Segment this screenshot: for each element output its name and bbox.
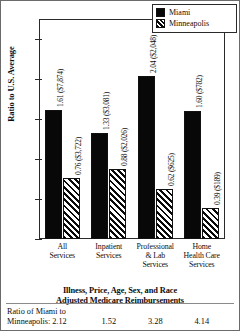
bar-minneapolis-0: [63, 178, 80, 239]
caption-line-2: Adjusted Medicare Reimbursements: [11, 296, 229, 306]
ratio-value-1: 1.52: [89, 317, 129, 327]
bar-value-label: 0.39 ($189): [214, 172, 221, 205]
legend-swatch-minneapolis: [156, 19, 165, 28]
figure-container: Miami Minneapolis Ratio to U.S. Average …: [0, 0, 240, 331]
bar-value-label: 0.76 ($3,722): [75, 137, 82, 175]
bar-miami-2: [138, 76, 155, 239]
bar-miami-0: [45, 110, 62, 239]
caption-line-1: Illness, Price, Age, Sex, and Race: [11, 286, 229, 296]
legend-item-minneapolis: Minneapolis: [156, 18, 233, 29]
bar-value-label: 1.60 ($782): [196, 75, 203, 108]
ratio-footer-label-line-2: Minneapolis: 2.12: [7, 317, 67, 327]
bar-minneapolis-3: [202, 208, 219, 239]
bar-value-label: 1.61 ($7,874): [57, 69, 64, 107]
legend-label-miami: Miami: [169, 8, 190, 17]
bar-value-label: 1.33 ($3,081): [103, 92, 110, 130]
x-tick-label-line: Services: [175, 260, 230, 269]
legend-item-miami: Miami: [156, 7, 233, 18]
x-tick-label-3: HomeHealth CareServices: [175, 242, 230, 270]
x-tick-label-line: Home: [175, 242, 230, 251]
plot-area: 1.61 ($7,874)0.76 ($3,722)1.33 ($3,081)0…: [39, 19, 225, 239]
ratio-footer-label: Ratio of Miami to Minneapolis: 2.12: [7, 307, 67, 327]
legend-swatch-miami: [156, 8, 165, 17]
x-tick-label-line: Health Care: [175, 251, 230, 260]
y-axis-title: Ratio to U.S. Average: [6, 14, 16, 154]
bar-value-label: 0.88 ($2,026): [121, 128, 128, 166]
y-tick-mark: [35, 239, 42, 240]
legend-label-minneapolis: Minneapolis: [169, 19, 209, 28]
ratio-value-2: 3.28: [135, 317, 175, 327]
footer-divider: [6, 303, 234, 304]
bar-miami-3: [184, 111, 201, 239]
bar-value-label: 0.62 ($625): [168, 154, 175, 187]
ratio-footer: Ratio of Miami to Minneapolis: 2.12 1.52…: [6, 307, 234, 329]
chart-legend: Miami Minneapolis: [152, 4, 237, 33]
ratio-footer-label-line-1: Ratio of Miami to: [7, 307, 67, 317]
bar-minneapolis-1: [109, 169, 126, 239]
bar-miami-1: [91, 133, 108, 239]
bar-value-label: 2.04 ($2,048): [150, 35, 157, 73]
bar-minneapolis-2: [156, 189, 173, 239]
ratio-value-3: 4.14: [182, 317, 222, 327]
